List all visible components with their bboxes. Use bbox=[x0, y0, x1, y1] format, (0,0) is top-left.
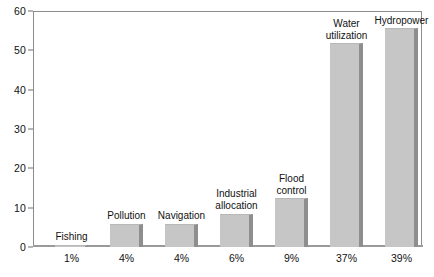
bar-label-fishing: Fishing bbox=[55, 231, 87, 243]
bar-fishing[interactable] bbox=[55, 245, 88, 247]
bar-label-pollution: Pollution bbox=[107, 210, 145, 222]
x-tick-label-fishing: 1% bbox=[64, 252, 79, 264]
bar-slot-flood-control: Flood control bbox=[275, 12, 308, 247]
bar-chart: 60 50 40 30 20 10 0 Fishing Pollution Na… bbox=[0, 0, 434, 277]
bar-hydropower[interactable] bbox=[385, 28, 418, 247]
x-tick-label-navigation: 4% bbox=[174, 252, 189, 264]
bar-water-utilization[interactable] bbox=[330, 43, 363, 247]
bar-pollution[interactable] bbox=[110, 224, 143, 248]
y-tick-label-10: 10 bbox=[14, 202, 26, 214]
bar-flood-control[interactable] bbox=[275, 198, 308, 247]
bar-navigation[interactable] bbox=[165, 224, 198, 248]
bar-label-hydropower: Hydropower bbox=[375, 15, 429, 27]
y-tick-label-50: 50 bbox=[14, 44, 26, 56]
y-tick-label-60: 60 bbox=[14, 5, 26, 17]
x-tick-label-hydropower: 39% bbox=[391, 252, 412, 264]
y-tick-label-30: 30 bbox=[14, 123, 26, 135]
y-tick-label-40: 40 bbox=[14, 84, 26, 96]
bar-slot-fishing: Fishing bbox=[55, 12, 88, 247]
x-tick-label-flood-control: 9% bbox=[284, 252, 299, 264]
bar-label-flood-control: Flood control bbox=[276, 173, 306, 196]
bars-layer: Fishing Pollution Navigation Industrial … bbox=[34, 12, 421, 247]
x-axis-labels: 1% 4% 4% 6% 9% 37% 39% bbox=[34, 252, 421, 272]
x-tick-label-water-utilization: 37% bbox=[336, 252, 357, 264]
bar-label-industrial-allocation: Industrial allocation bbox=[215, 188, 257, 211]
x-tick-label-industrial-allocation: 6% bbox=[229, 252, 244, 264]
bar-label-water-utilization: Water utilization bbox=[326, 18, 368, 41]
bar-slot-water-utilization: Water utilization bbox=[330, 12, 363, 247]
bar-slot-navigation: Navigation bbox=[165, 12, 198, 247]
y-axis: 60 50 40 30 20 10 0 bbox=[0, 0, 34, 277]
y-tick-label-0: 0 bbox=[20, 241, 26, 253]
bar-slot-industrial-allocation: Industrial allocation bbox=[220, 12, 253, 247]
bar-label-navigation: Navigation bbox=[158, 210, 205, 222]
bar-slot-hydropower: Hydropower bbox=[385, 12, 418, 247]
x-tick-label-pollution: 4% bbox=[119, 252, 134, 264]
bar-industrial-allocation[interactable] bbox=[220, 214, 253, 247]
y-tick-label-20: 20 bbox=[14, 162, 26, 174]
bar-slot-pollution: Pollution bbox=[110, 12, 143, 247]
